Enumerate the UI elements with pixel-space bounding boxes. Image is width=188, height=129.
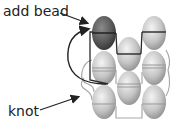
bead — [117, 71, 141, 105]
bead — [92, 85, 116, 119]
beads — [92, 16, 166, 119]
add-bead-label: add bead — [3, 4, 69, 18]
bead — [142, 85, 166, 119]
knot-pointer-arrow-icon — [40, 97, 78, 110]
knot-label: knot — [8, 104, 39, 118]
bead — [142, 16, 166, 50]
